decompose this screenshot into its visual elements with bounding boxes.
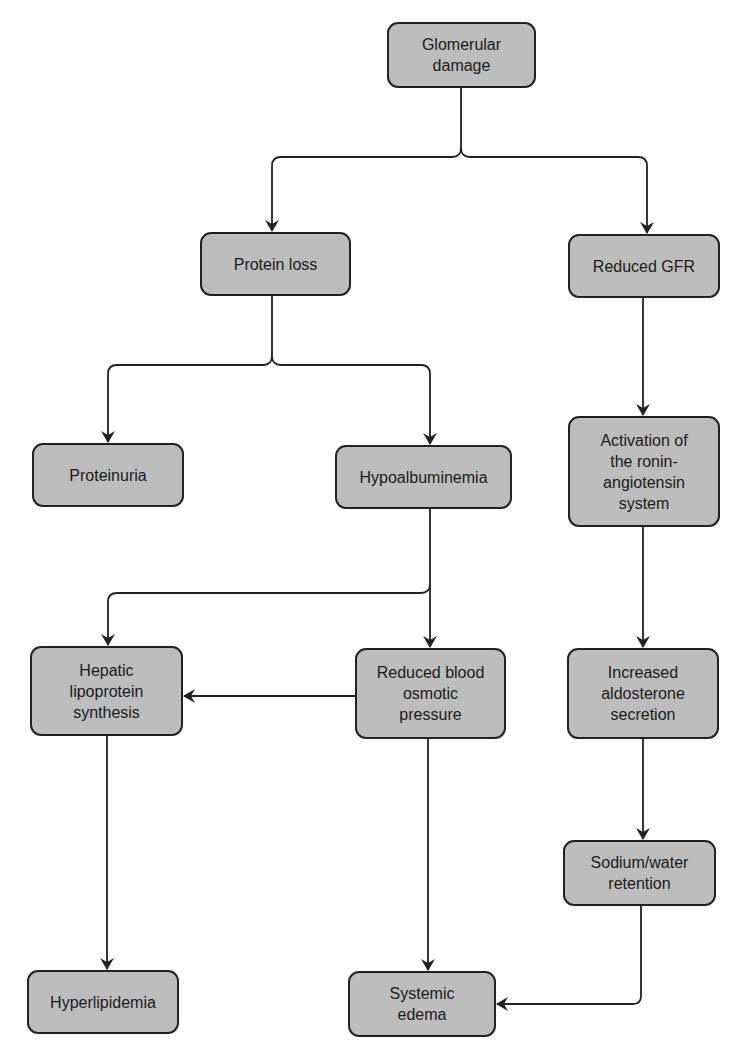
node-hypoalbuminemia: Hypoalbuminemia [335, 445, 512, 509]
edge-glomerular-to-protein-loss [272, 87, 461, 231]
edge-protein-loss-to-hypoalbuminemia [272, 356, 430, 444]
edge-glomerular-to-reduced-gfr [461, 148, 647, 233]
flowchart: Glomerular damage Protein loss Reduced G… [0, 0, 749, 1056]
edge-sodium-to-edema [497, 905, 641, 1004]
node-glomerular-damage: Glomerular damage [387, 22, 536, 88]
node-raas-activation: Activation of the ronin- angiotensin sys… [568, 416, 720, 527]
node-increased-aldosterone: Increased aldosterone secretion [567, 648, 719, 739]
node-protein-loss: Protein loss [200, 232, 351, 296]
node-systemic-edema: Systemic edema [348, 971, 496, 1037]
node-hepatic-lipoprotein: Hepatic lipoprotein synthesis [30, 646, 183, 736]
node-hyperlipidemia: Hyperlipidemia [27, 970, 179, 1034]
edge-protein-loss-to-proteinuria [108, 295, 272, 442]
node-proteinuria: Proteinuria [32, 443, 184, 507]
node-reduced-gfr: Reduced GFR [568, 234, 720, 298]
edge-hypo-to-hepatic [108, 508, 430, 645]
node-sodium-water-retention: Sodium/water retention [563, 840, 716, 906]
node-reduced-osmotic-pressure: Reduced blood osmotic pressure [355, 648, 506, 739]
